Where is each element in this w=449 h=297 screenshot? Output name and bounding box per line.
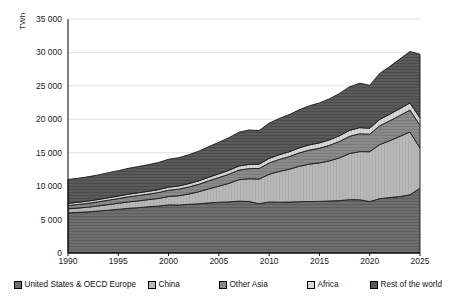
legend-label: Africa	[318, 281, 339, 289]
legend-swatch-icon	[148, 281, 156, 289]
legend-label: China	[159, 281, 180, 289]
area-bands: United States & OECD EuropeChinaOther As…	[68, 51, 420, 253]
plot-area: United States & OECD EuropeChinaOther As…	[0, 0, 449, 297]
legend-swatch-icon	[307, 281, 315, 289]
legend-label: Rest of the world	[381, 281, 442, 289]
chart-legend: United States & OECD EuropeChinaOther As…	[0, 277, 449, 293]
legend-item[interactable]: Other Asia	[219, 281, 268, 289]
legend-swatch-icon	[14, 281, 22, 289]
legend-item[interactable]: United States & OECD Europe	[14, 281, 136, 289]
stacked-area-chart: TWh 35 00030 00025 00020 00015 00010 000…	[0, 0, 449, 297]
legend-swatch-icon	[219, 281, 227, 289]
legend-item[interactable]: Africa	[307, 281, 338, 289]
legend-label: Other Asia	[230, 281, 268, 289]
legend-label: United States & OECD Europe	[25, 281, 137, 289]
legend-item[interactable]: China	[148, 281, 180, 289]
legend-item[interactable]: Rest of the world	[370, 281, 442, 289]
legend-swatch-icon	[370, 281, 378, 289]
